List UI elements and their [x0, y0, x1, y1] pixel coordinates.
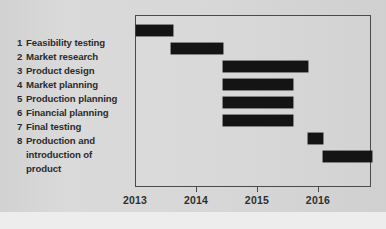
task-number: 1 — [17, 36, 26, 50]
task-list-item: 8 Production and introduction of product — [17, 134, 135, 176]
x-axis-tick-label: 2014 — [176, 194, 216, 206]
chart-content-layer: 1 Feasibility testing 2 Market research … — [0, 0, 386, 229]
task-number: 4 — [17, 78, 26, 92]
x-axis-tick — [318, 187, 319, 192]
task-name-line: Market planning — [26, 79, 98, 90]
gantt-bars — [136, 16, 370, 186]
task-list-item: 6 Financial planning — [17, 106, 135, 120]
gantt-bar — [223, 97, 293, 108]
task-name-line: Product design — [26, 65, 94, 76]
task-number: 5 — [17, 92, 26, 106]
task-number: 2 — [17, 50, 26, 64]
gantt-bar — [308, 133, 323, 144]
task-name-line: Final testing — [26, 121, 81, 132]
task-name-line: Production and — [26, 134, 95, 148]
task-name-line: Financial planning — [26, 107, 108, 118]
task-name: Financial planning — [26, 106, 108, 120]
x-axis-tick — [196, 187, 197, 192]
task-name-line: product — [26, 162, 95, 176]
task-number: 7 — [17, 120, 26, 134]
task-name: Market planning — [26, 78, 98, 92]
x-axis-tick-label: 2013 — [115, 194, 155, 206]
task-name: Product design — [26, 64, 94, 78]
task-name-line: Market research — [26, 51, 98, 62]
task-number: 3 — [17, 64, 26, 78]
task-label-list: 1 Feasibility testing 2 Market research … — [17, 36, 135, 176]
gantt-bar — [223, 61, 308, 72]
task-list-item: 3 Product design — [17, 64, 135, 78]
task-name-line: Feasibility testing — [26, 37, 105, 48]
task-name-line: Production planning — [26, 93, 117, 104]
task-list-item: 4 Market planning — [17, 78, 135, 92]
gantt-bar — [171, 43, 223, 54]
task-list-item: 5 Production planning — [17, 92, 135, 106]
plot-area — [135, 15, 371, 187]
task-list-item: 7 Final testing — [17, 120, 135, 134]
task-list-item: 2 Market research — [17, 50, 135, 64]
task-name: Market research — [26, 50, 98, 64]
gantt-bar — [223, 115, 293, 126]
gantt-chart-figure: 1 Feasibility testing 2 Market research … — [0, 0, 386, 229]
task-name: Production planning — [26, 92, 117, 106]
gantt-bar — [323, 151, 372, 162]
task-number: 6 — [17, 106, 26, 120]
gantt-bar — [223, 79, 293, 90]
task-name-line: introduction of — [26, 148, 95, 162]
x-axis-tick-label: 2015 — [237, 194, 277, 206]
task-list-item: 1 Feasibility testing — [17, 36, 135, 50]
x-axis-tick-label: 2016 — [298, 194, 338, 206]
task-name: Production and introduction of product — [26, 134, 95, 176]
gantt-bar — [136, 25, 173, 36]
x-axis-tick — [257, 187, 258, 192]
task-name: Feasibility testing — [26, 36, 105, 50]
task-name: Final testing — [26, 120, 81, 134]
task-number: 8 — [17, 134, 26, 148]
